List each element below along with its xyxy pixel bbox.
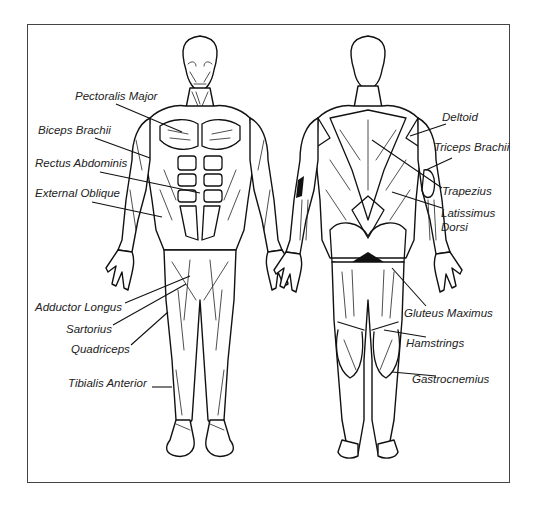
label-hamstrings: Hamstrings — [406, 337, 464, 350]
label-gluteus-maximus: Gluteus Maximus — [404, 307, 493, 320]
muscle-illustration — [0, 0, 539, 511]
label-tibialis-anterior: Tibialis Anterior — [68, 377, 147, 390]
label-gastrocnemius: Gastrocnemius — [412, 373, 489, 386]
label-biceps-brachii: Biceps Brachii — [38, 124, 111, 137]
label-triceps-brachii: Triceps Brachii — [434, 141, 509, 154]
label-adductor-longus: Adductor Longus — [35, 301, 122, 314]
label-rectus-abdominis: Rectus Abdominis — [35, 157, 127, 170]
label-latissimus: Latissimus — [441, 207, 495, 220]
back-figure — [274, 36, 462, 458]
label-pectoralis-major: Pectoralis Major — [75, 90, 157, 103]
label-trapezius: Trapezius — [442, 185, 492, 198]
label-sartorius: Sartorius — [66, 323, 112, 336]
label-deltoid: Deltoid — [442, 111, 478, 124]
label-external-oblique: External Oblique — [35, 187, 120, 200]
label-dorsi: Dorsi — [441, 221, 468, 234]
label-quadriceps: Quadriceps — [71, 343, 130, 356]
